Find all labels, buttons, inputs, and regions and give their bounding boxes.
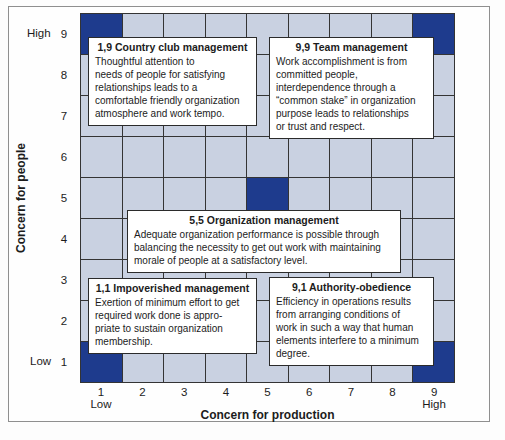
y-axis-tick-3: 3 bbox=[56, 260, 72, 301]
x-axis-tick-4: 4 bbox=[205, 386, 247, 399]
grid-cell-9-5 bbox=[413, 178, 454, 218]
x-axis-ticks: 123456789 bbox=[80, 386, 455, 399]
grid-cell-3-6 bbox=[164, 137, 205, 177]
grid-cell-1-5 bbox=[81, 178, 122, 218]
x-axis-title: Concern for production bbox=[80, 408, 455, 422]
x-axis-tick-5: 5 bbox=[247, 386, 289, 399]
y-axis-title: Concern for people bbox=[14, 143, 28, 253]
y-axis-low-label: Low bbox=[30, 355, 51, 367]
style-box-1-1-title: 1,1 Impoverished management bbox=[95, 282, 250, 296]
style-box-9-1: 9,1 Authority-obedience Efficiency in op… bbox=[269, 277, 434, 366]
grid-cell-9-6 bbox=[413, 137, 454, 177]
style-box-5-5-body: Adequate organization performance is pos… bbox=[134, 228, 394, 267]
grid-cell-9-4 bbox=[413, 219, 454, 259]
style-box-1-9-title: 1,9 Country club management bbox=[95, 41, 250, 55]
style-box-1-1: 1,1 Impoverished management Exertion of … bbox=[88, 278, 257, 354]
x-axis-tick-8: 8 bbox=[372, 386, 414, 399]
y-axis-tick-9: 9 bbox=[56, 13, 72, 54]
x-axis-tick-6: 6 bbox=[288, 386, 330, 399]
grid-cell-7-6 bbox=[330, 137, 371, 177]
style-box-9-9-body: Work accomplishment is from committed pe… bbox=[276, 55, 427, 133]
style-box-9-1-title: 9,1 Authority-obedience bbox=[276, 281, 427, 295]
x-axis-tick-7: 7 bbox=[330, 386, 372, 399]
style-box-1-1-body: Exertion of minimum effort to get requir… bbox=[95, 296, 250, 348]
y-axis-tick-5: 5 bbox=[56, 177, 72, 218]
y-axis-tick-4: 4 bbox=[56, 219, 72, 260]
y-axis-tick-1: 1 bbox=[56, 342, 72, 383]
grid-cell-2-6 bbox=[123, 137, 164, 177]
y-axis-high-label: High bbox=[27, 27, 51, 39]
style-box-5-5: 5,5 Organization management Adequate org… bbox=[127, 210, 401, 273]
style-box-5-5-title: 5,5 Organization management bbox=[134, 214, 394, 228]
grid-cell-6-6 bbox=[289, 137, 330, 177]
style-box-1-9-body: Thoughtful attention to needs of people … bbox=[95, 55, 250, 120]
grid-cell-4-6 bbox=[206, 137, 247, 177]
y-axis-tick-2: 2 bbox=[56, 301, 72, 342]
y-axis-tick-7: 7 bbox=[56, 95, 72, 136]
style-box-9-9-title: 9,9 Team management bbox=[276, 41, 427, 55]
y-axis-ticks: 987654321 bbox=[56, 13, 72, 383]
managerial-grid-figure: High Low 987654321 Concern for people 12… bbox=[0, 0, 505, 440]
x-axis-tick-3: 3 bbox=[163, 386, 205, 399]
grid-cell-5-6 bbox=[247, 137, 288, 177]
style-box-1-9: 1,9 Country club management Thoughtful a… bbox=[88, 37, 257, 126]
grid-cell-8-6 bbox=[372, 137, 413, 177]
y-axis-tick-8: 8 bbox=[56, 54, 72, 95]
style-box-9-1-body: Efficiency in operations results from ar… bbox=[276, 295, 427, 360]
y-axis-tick-6: 6 bbox=[56, 136, 72, 177]
style-box-9-9: 9,9 Team management Work accomplishment … bbox=[269, 37, 434, 139]
x-axis-tick-2: 2 bbox=[122, 386, 164, 399]
grid-cell-1-4 bbox=[81, 219, 122, 259]
grid-cell-1-6 bbox=[81, 137, 122, 177]
